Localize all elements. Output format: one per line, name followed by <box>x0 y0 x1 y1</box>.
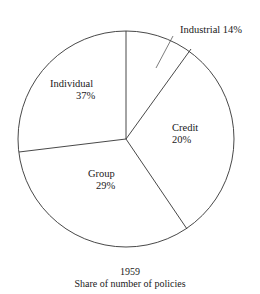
label-group-name: Group <box>88 168 115 180</box>
caption-year: 1959 <box>0 266 260 278</box>
label-individual-name: Individual <box>50 78 93 90</box>
label-industrial: Industrial 14% <box>180 24 242 36</box>
label-group-pct: 29% <box>96 180 115 192</box>
pie-chart <box>0 0 260 294</box>
label-credit-name: Credit <box>172 122 198 134</box>
label-individual-pct: 37% <box>76 90 95 102</box>
label-credit-pct: 20% <box>172 134 191 146</box>
caption-text: Share of number of policies <box>0 278 260 290</box>
